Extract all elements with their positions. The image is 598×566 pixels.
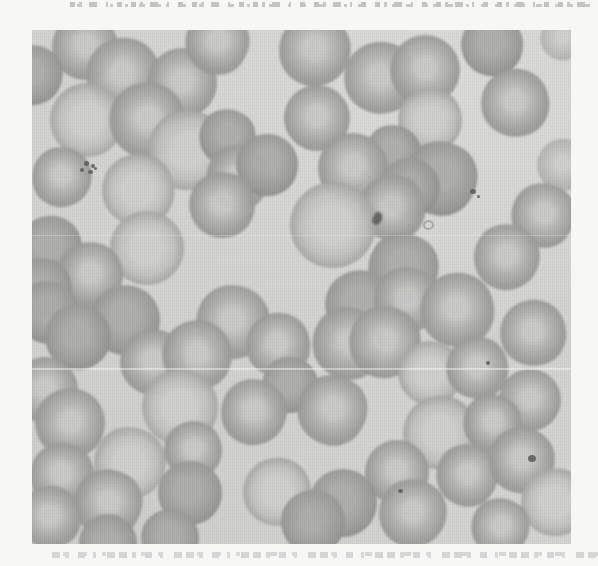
blood-smear-photomicrograph xyxy=(32,30,571,544)
film-grain-overlay xyxy=(32,30,571,544)
cropped-caption-line-bottom xyxy=(52,552,598,560)
cropped-text-line-top xyxy=(70,0,594,7)
